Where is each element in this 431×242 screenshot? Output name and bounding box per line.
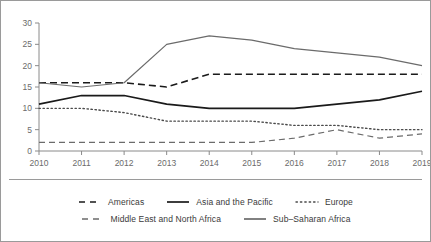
legend-item-label: Middle East and North Africa [111, 214, 222, 224]
x-tick-label: 2016 [285, 158, 304, 168]
line-chart-svg: 051015202530 201020112012201320142015201… [1, 1, 430, 179]
x-tick-label: 2012 [115, 158, 134, 168]
y-tick-label: 30 [23, 18, 33, 28]
legend-item-label: Sub–Saharan Africa [273, 214, 350, 224]
legend-swatch-dashed [78, 198, 102, 206]
y-tick-label: 0 [27, 146, 32, 156]
legend-item-label: Europe [325, 197, 353, 207]
legend-item-label: Asia and the Pacific [196, 197, 273, 207]
x-tick-label: 2019 [413, 158, 430, 168]
series-line-asia-and-the-pacific [39, 91, 422, 108]
chart-figure: 051015202530 201020112012201320142015201… [0, 0, 431, 242]
x-tick-label: 2010 [30, 158, 49, 168]
legend-swatch-solid [243, 215, 267, 223]
legend-row: Middle East and North AfricaSub–Saharan … [81, 214, 351, 224]
x-tick-label: 2013 [157, 158, 176, 168]
legend-row: AmericasAsia and the PacificEurope [78, 197, 353, 207]
plot-area: 051015202530 201020112012201320142015201… [1, 1, 430, 179]
legend-item-label: Americas [108, 197, 144, 207]
legend-swatch-dotted [295, 198, 319, 206]
y-tick-label: 25 [23, 39, 33, 49]
y-tick-label: 5 [27, 125, 32, 135]
x-tick-label: 2015 [242, 158, 261, 168]
x-tick-label: 2017 [327, 158, 346, 168]
legend-swatch-solid [166, 198, 190, 206]
x-tick-label: 2018 [370, 158, 389, 168]
legend-swatch-dashed [81, 215, 105, 223]
series-line-middle-east-and-north-africa [39, 130, 422, 143]
series-line-sub-saharan-africa [39, 36, 422, 87]
legend-item-americas[interactable]: Americas [78, 197, 144, 207]
legend-item-sub-saharan-africa[interactable]: Sub–Saharan Africa [243, 214, 350, 224]
legend-item-asia-and-the-pacific[interactable]: Asia and the Pacific [166, 197, 273, 207]
legend-item-europe[interactable]: Europe [295, 197, 353, 207]
series-group [39, 36, 422, 143]
y-tick-group: 051015202530 [23, 18, 39, 156]
series-line-europe [39, 108, 422, 129]
legend-item-middle-east-and-north-africa[interactable]: Middle East and North Africa [81, 214, 222, 224]
x-tick-label: 2011 [72, 158, 91, 168]
x-tick-group: 2010201120122013201420152016201720182019 [30, 151, 430, 168]
y-tick-label: 20 [23, 61, 33, 71]
x-tick-label: 2014 [200, 158, 219, 168]
y-tick-label: 10 [23, 103, 33, 113]
y-tick-label: 15 [23, 82, 33, 92]
chart-legend: AmericasAsia and the PacificEurope Middl… [1, 180, 430, 241]
